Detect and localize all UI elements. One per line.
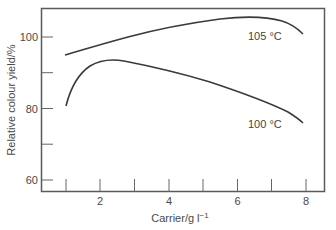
x-tick-label-4: 4 (166, 195, 172, 207)
series-line-100c (66, 60, 303, 123)
y-axis-ticks (42, 37, 54, 180)
chart-canvas: 60 80 100 2 4 6 8 Carrier/g l−1 Relative… (0, 0, 336, 230)
y-tick-label-60: 60 (26, 174, 38, 186)
x-axis-ticks (66, 179, 306, 192)
plot-frame (42, 9, 325, 192)
x-axis-label-main: Carrier/g l (151, 212, 199, 224)
y-axis-label: Relative colour yield/% (5, 44, 17, 155)
x-tick-label-2: 2 (97, 195, 103, 207)
x-axis-label-superscript: −1 (200, 211, 210, 220)
x-tick-label-8: 8 (303, 195, 309, 207)
y-tick-label-80: 80 (26, 103, 38, 115)
y-tick-label-100: 100 (20, 31, 38, 43)
series-label-100c: 100 °C (248, 118, 282, 130)
series-label-105c: 105 °C (248, 30, 282, 42)
x-tick-label-6: 6 (234, 195, 240, 207)
x-axis-label: Carrier/g l−1 (151, 211, 209, 224)
